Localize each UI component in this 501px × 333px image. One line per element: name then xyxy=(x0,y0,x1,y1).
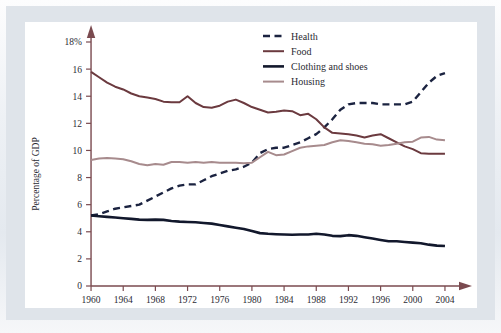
series-line-food xyxy=(91,72,445,154)
y-tick-label: 8 xyxy=(77,173,82,183)
y-tick-label: 12 xyxy=(73,119,83,129)
x-tick-label: 1992 xyxy=(339,295,358,305)
legend-label-housing: Housing xyxy=(291,76,325,87)
series-line-clothing-and-shoes xyxy=(91,216,445,247)
series-line-housing xyxy=(91,137,445,165)
series-layer xyxy=(91,72,445,246)
x-tick-label: 2000 xyxy=(403,295,422,305)
y-tick-label: 4 xyxy=(77,227,82,237)
legend-layer: HealthFoodClothing and shoesHousing xyxy=(263,31,368,88)
legend-label-health: Health xyxy=(291,31,318,42)
x-tick-label: 1988 xyxy=(307,295,326,305)
x-tick-label: 2004 xyxy=(435,295,454,305)
y-tick-label: 18% xyxy=(65,37,83,47)
x-tick-label: 1968 xyxy=(146,295,165,305)
legend-label-food: Food xyxy=(291,46,312,57)
x-tick-label: 1976 xyxy=(210,295,229,305)
line-chart: 024681012141618%196019641968197219761980… xyxy=(25,22,477,308)
y-tick-label: 2 xyxy=(77,254,82,264)
y-tick-label: 14 xyxy=(73,92,83,102)
y-tick-label: 6 xyxy=(77,200,82,210)
y-axis-arrowhead xyxy=(87,25,95,38)
y-axis-title: Percentage of GDP xyxy=(31,137,41,210)
x-tick-label: 1964 xyxy=(114,295,133,305)
x-tick-label: 1980 xyxy=(242,295,261,305)
legend-label-clothing-and-shoes: Clothing and shoes xyxy=(291,61,368,72)
axes-layer xyxy=(86,25,472,291)
y-tick-label: 10 xyxy=(73,146,83,156)
tick-label-layer: 024681012141618%196019641968197219761980… xyxy=(31,37,455,305)
x-tick-label: 1960 xyxy=(82,295,101,305)
y-tick-label: 0 xyxy=(77,281,82,291)
x-tick-label: 1984 xyxy=(275,295,294,305)
figure-root: 024681012141618%196019641968197219761980… xyxy=(0,0,501,333)
x-tick-label: 1972 xyxy=(178,295,197,305)
y-tick-label: 16 xyxy=(73,65,83,75)
x-tick-label: 1996 xyxy=(371,295,390,305)
x-axis-arrowhead xyxy=(459,282,472,290)
